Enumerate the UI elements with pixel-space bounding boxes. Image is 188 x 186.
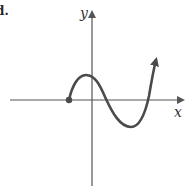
graph: d. y x <box>0 0 188 186</box>
part-label: d. <box>0 4 9 18</box>
closed-endpoint-dot <box>66 97 72 103</box>
x-axis-label: x <box>174 104 182 120</box>
y-axis-label: y <box>79 5 89 21</box>
function-curve <box>69 60 156 127</box>
